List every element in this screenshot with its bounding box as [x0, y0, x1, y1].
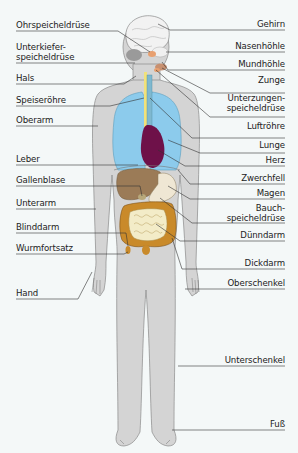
brain-shape — [126, 16, 169, 53]
label-duenndarm: Dünndarm — [240, 230, 285, 240]
label-nasenhoehle: Nasenhöhle — [235, 41, 285, 51]
label-wurmfortsatz: Wurmfortsatz — [16, 243, 73, 253]
label-oberschenkel: Oberschenkel — [227, 278, 285, 288]
label-magen: Magen — [257, 188, 285, 198]
label-lunge: Lunge — [259, 140, 285, 150]
rectum-shape — [142, 245, 150, 255]
label-line1: Bauch- — [227, 203, 285, 213]
label-unterzungenspeicheldruese: Unterzungen- speicheldrüse — [227, 93, 285, 113]
label-zwerchfell: Zwerchfell — [241, 173, 285, 183]
hand-fingers — [92, 278, 199, 444]
label-gehirn: Gehirn — [257, 19, 285, 29]
label-leber: Leber — [16, 154, 40, 164]
label-blinddarm: Blinddarm — [16, 222, 59, 232]
label-hals: Hals — [16, 73, 34, 83]
sublingual-gland-shape — [154, 68, 160, 72]
label-mundhoehle: Mundhöhle — [238, 59, 285, 69]
gland-shape — [148, 51, 156, 57]
label-line1: Unterzungen- — [227, 93, 285, 103]
label-unterkieferspeicheldruese: Unterkiefer- speicheldrüse — [16, 42, 74, 62]
label-fuss: Fuß — [270, 419, 285, 429]
label-line2: speicheldrüse — [16, 52, 74, 62]
label-unterarm: Unterarm — [16, 198, 56, 208]
label-gallenblase: Gallenblase — [16, 175, 65, 185]
trachea-shape — [147, 75, 152, 127]
label-line2: speicheldrüse — [227, 213, 285, 223]
label-zunge: Zunge — [258, 75, 285, 85]
label-hand: Hand — [16, 288, 38, 298]
label-line1: Unterkiefer- — [16, 42, 74, 52]
label-dickdarm: Dickdarm — [245, 258, 285, 268]
label-oberarm: Oberarm — [16, 115, 53, 125]
cerebellum-shape — [126, 49, 142, 61]
label-bauchspeicheldruese: Bauch- speicheldrüse — [227, 203, 285, 223]
label-herz: Herz — [266, 155, 285, 165]
label-unterschenkel: Unterschenkel — [225, 355, 285, 365]
label-speiseroehre: Speiseröhre — [16, 95, 66, 105]
esophagus-shape — [144, 72, 147, 130]
label-line2: speicheldrüse — [227, 103, 285, 113]
label-luftroehre: Luftröhre — [247, 121, 285, 131]
label-ohrspeicheldruese: Ohrspeicheldrüse — [16, 20, 90, 30]
